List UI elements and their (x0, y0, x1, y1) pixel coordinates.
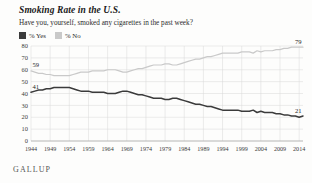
x-axis-tick-label: 1979 (159, 146, 171, 152)
x-axis-tick-label: 1954 (63, 146, 75, 152)
y-axis-tick-label: 80 (22, 42, 28, 49)
data-point-label: 41 (33, 83, 40, 90)
x-axis-tick-label: 1989 (197, 146, 209, 152)
x-axis-tick-label: 1994 (216, 146, 228, 152)
x-axis-tick-label: 2004 (255, 146, 267, 152)
data-point-label: 21 (295, 107, 302, 114)
x-axis-tick-label: 1984 (178, 146, 190, 152)
y-axis-tick-label: 50 (22, 78, 28, 85)
x-axis-tick-label: 1999 (236, 146, 248, 152)
y-axis-tick-label: 30 (22, 102, 28, 109)
y-axis-tick-label: 20 (22, 113, 28, 120)
x-axis-tick-label: 1974 (140, 146, 152, 152)
line-chart-plot: 0102030405060708019441949195419591964196… (0, 0, 312, 183)
gallup-logo: GALLUP (13, 165, 51, 174)
series-line-no (31, 47, 303, 76)
y-axis-tick-label: 60 (22, 66, 28, 73)
chart-page: Smoking Rate in the U.S. Have you, yours… (0, 0, 312, 183)
series-line-yes (31, 88, 303, 118)
y-axis-tick-label: 70 (22, 54, 28, 61)
x-axis-tick-label: 1969 (121, 146, 133, 152)
y-axis-tick-label: 40 (22, 90, 28, 97)
x-axis-tick-label: 1964 (102, 146, 114, 152)
x-axis-tick-label: 1944 (25, 146, 37, 152)
x-axis-tick-label: 1959 (82, 146, 94, 152)
y-axis-tick-label: 10 (22, 125, 28, 132)
y-axis-tick-label: 0 (25, 137, 28, 144)
x-axis-tick-label: 2009 (274, 146, 286, 152)
x-axis-tick-label: 1949 (44, 146, 56, 152)
x-axis-tick-label: 2014 (293, 146, 305, 152)
data-point-label: 79 (295, 38, 302, 45)
data-point-label: 59 (33, 61, 40, 68)
